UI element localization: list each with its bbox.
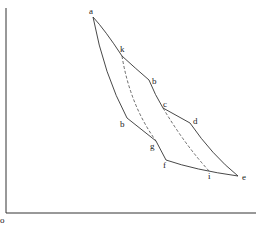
point-label-k: k xyxy=(120,45,125,54)
point-label-d: d xyxy=(193,117,198,126)
axes xyxy=(6,8,256,213)
point-label-b: b xyxy=(152,77,157,86)
point-label-g: g xyxy=(150,142,155,151)
solid-curve xyxy=(127,118,156,141)
point-label-b: b xyxy=(120,120,125,129)
solid-curve xyxy=(190,123,238,176)
solid-curve xyxy=(163,108,190,123)
solid-curve xyxy=(156,141,166,160)
point-label-i: i xyxy=(208,172,211,181)
point-label-a: a xyxy=(89,7,93,16)
point-label-f: f xyxy=(163,161,166,170)
dashed-curves xyxy=(122,56,210,172)
point-label-e: e xyxy=(242,173,246,182)
solid-curve xyxy=(93,17,127,118)
point-label-c: c xyxy=(163,100,167,109)
indicator-diagram xyxy=(0,0,256,229)
solid-curves xyxy=(93,17,238,176)
point-label-o: o xyxy=(0,216,5,225)
dashed-curve xyxy=(122,56,156,141)
